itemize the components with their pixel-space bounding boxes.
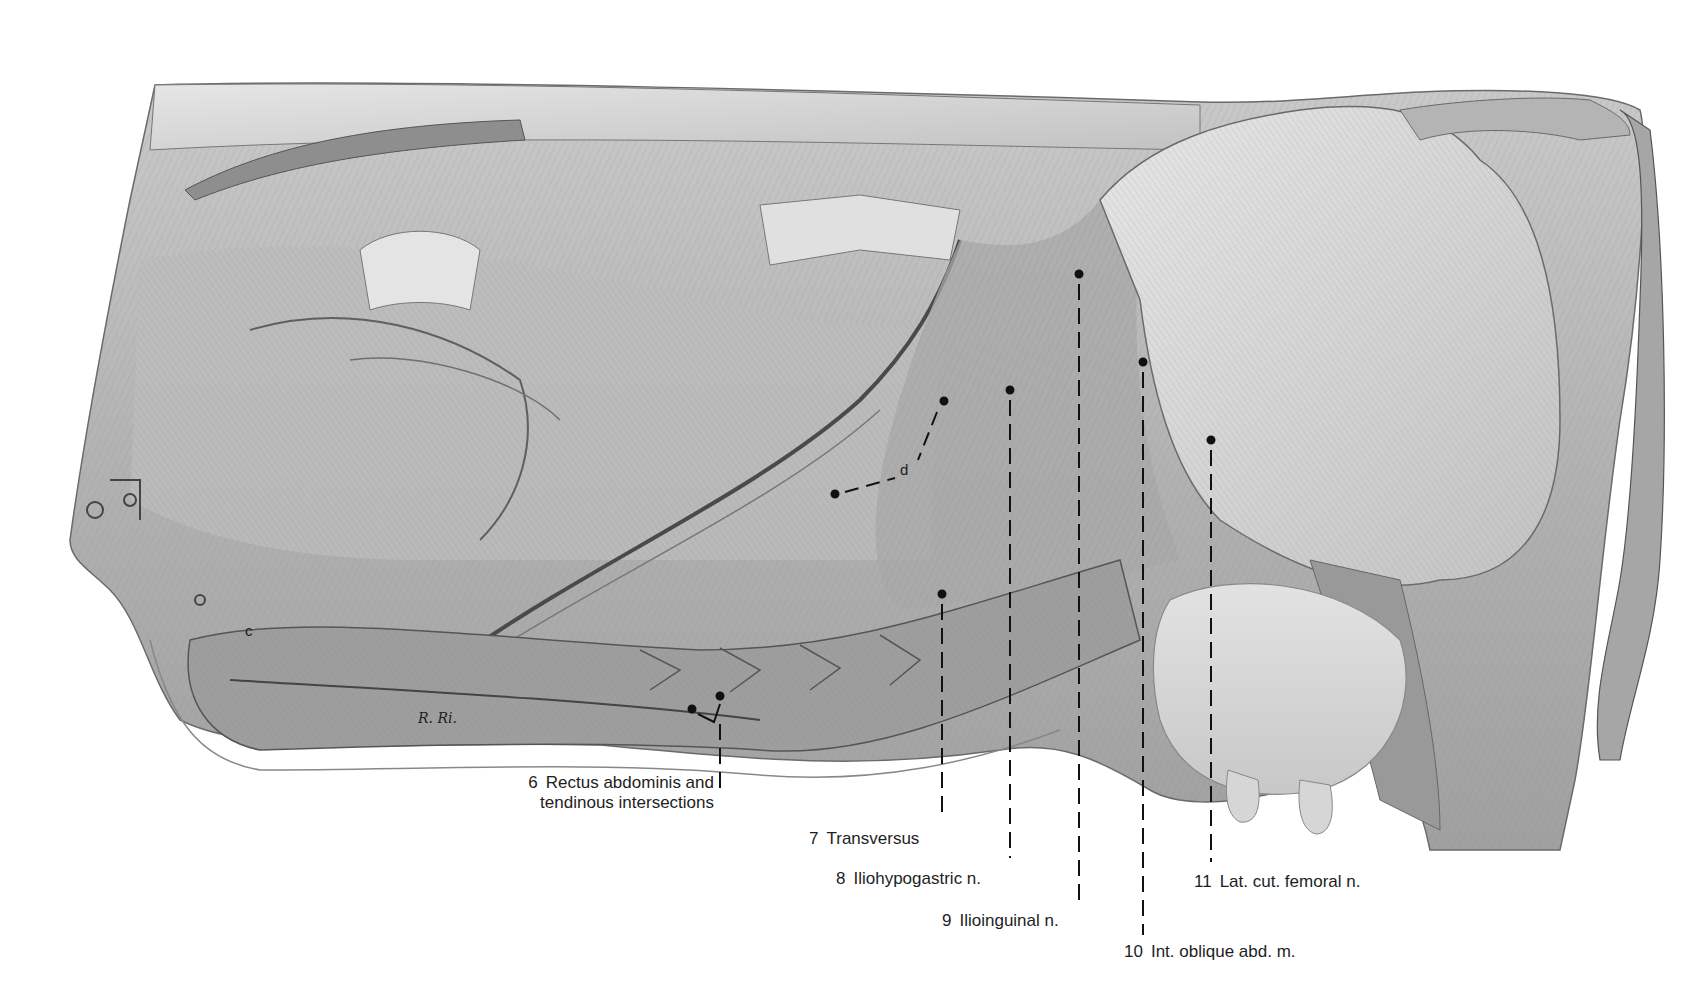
label-7-text: Transversus [826,829,919,848]
label-6-number: 6 [528,773,537,792]
label-11-lat-cut-femoral: 11Lat. cut. femoral n. [1194,872,1360,892]
label-9-number: 9 [942,911,951,930]
label-9-ilioinguinal: 9Ilioinguinal n. [942,911,1059,931]
label-7-transversus: 7Transversus [809,829,919,849]
letter-c: c [245,622,253,639]
label-10-number: 10 [1124,942,1143,961]
label-10-internal-oblique: 10Int. oblique abd. m. [1124,942,1296,962]
label-8-iliohypogastric: 8Iliohypogastric n. [836,869,981,889]
label-6-rectus-abdominis: 6Rectus abdominis and tendinous intersec… [458,773,714,813]
label-11-number: 11 [1194,872,1212,891]
label-6-line1: Rectus abdominis and [546,773,714,792]
label-6-line2: tendinous intersections [458,793,714,813]
label-11-text: Lat. cut. femoral n. [1220,872,1361,891]
label-7-number: 7 [809,829,818,848]
dorsal-muscle-band [150,84,1200,150]
label-9-text: Ilioinguinal n. [959,911,1058,930]
artist-signature: R. Ri. [418,710,457,726]
label-8-number: 8 [836,869,845,888]
letter-d: d [900,461,908,478]
label-8-text: Iliohypogastric n. [853,869,981,888]
label-10-text: Int. oblique abd. m. [1151,942,1296,961]
